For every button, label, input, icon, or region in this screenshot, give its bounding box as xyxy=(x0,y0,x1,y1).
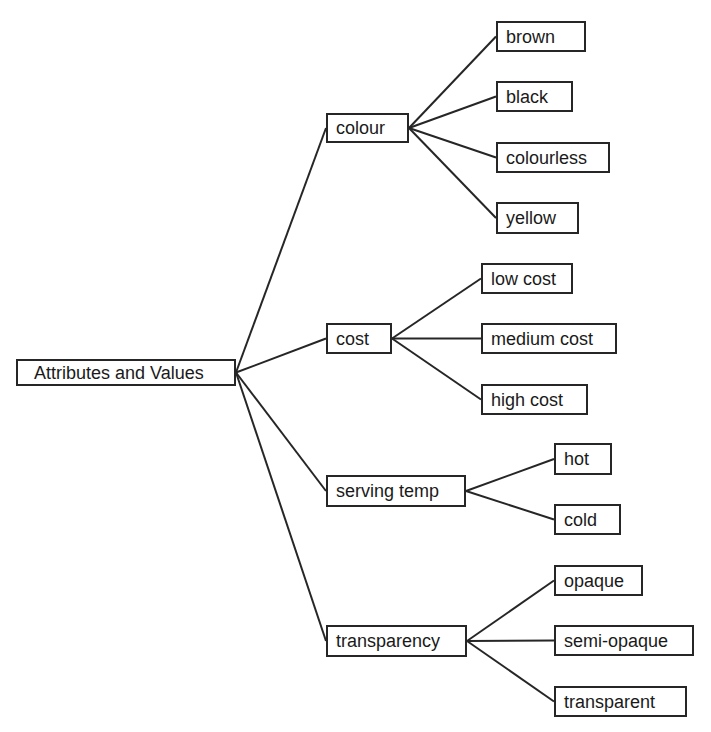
value-node-high-cost: high cost xyxy=(481,384,588,415)
attribute-node-transparency: transparency xyxy=(326,625,467,657)
edge-serving-temp-cold xyxy=(466,491,554,520)
node-label: transparent xyxy=(564,693,655,711)
value-node-medium-cost: medium cost xyxy=(481,323,617,354)
node-label: Attributes and Values xyxy=(34,364,204,382)
node-label: low cost xyxy=(491,270,556,288)
value-node-opaque: opaque xyxy=(554,565,643,596)
edge-colour-black xyxy=(409,97,496,129)
edge-root-cost xyxy=(236,339,326,373)
edge-transparency-semi-opaque xyxy=(467,641,554,642)
value-node-black: black xyxy=(496,81,573,112)
node-label: yellow xyxy=(506,209,556,227)
edge-cost-high-cost xyxy=(392,339,481,400)
value-node-brown: brown xyxy=(496,21,586,52)
value-node-hot: hot xyxy=(554,443,612,475)
node-label: semi-opaque xyxy=(564,632,668,650)
edge-serving-temp-hot xyxy=(466,459,554,491)
root-node: Attributes and Values xyxy=(16,359,236,386)
value-node-yellow: yellow xyxy=(496,202,579,234)
edge-root-transparency xyxy=(236,373,326,642)
node-label: cost xyxy=(336,330,369,348)
edge-cost-low-cost xyxy=(392,279,481,339)
attribute-node-serving-temp: serving temp xyxy=(326,475,466,507)
node-label: colourless xyxy=(506,149,587,167)
edge-root-colour xyxy=(236,128,326,373)
value-node-cold: cold xyxy=(554,504,621,535)
edge-transparency-opaque xyxy=(467,581,554,642)
node-label: hot xyxy=(564,450,589,468)
node-label: medium cost xyxy=(491,330,593,348)
value-node-colourless: colourless xyxy=(496,142,610,173)
node-label: opaque xyxy=(564,572,624,590)
node-label: transparency xyxy=(336,632,440,650)
node-label: colour xyxy=(336,119,385,137)
value-node-low-cost: low cost xyxy=(481,263,573,294)
edge-transparency-transparent xyxy=(467,641,554,702)
node-label: brown xyxy=(506,28,555,46)
attribute-node-colour: colour xyxy=(326,113,409,143)
node-label: cold xyxy=(564,511,597,529)
value-node-transparent: transparent xyxy=(554,686,687,717)
attribute-node-cost: cost xyxy=(326,323,392,354)
attribute-value-tree: Attributes and Valuescolourbrownblackcol… xyxy=(0,0,711,732)
value-node-semi-opaque: semi-opaque xyxy=(554,625,694,656)
edge-colour-brown xyxy=(409,37,496,129)
node-label: serving temp xyxy=(336,482,439,500)
edge-colour-yellow xyxy=(409,128,496,218)
edge-root-serving-temp xyxy=(236,373,326,492)
node-label: black xyxy=(506,88,548,106)
node-label: high cost xyxy=(491,391,563,409)
